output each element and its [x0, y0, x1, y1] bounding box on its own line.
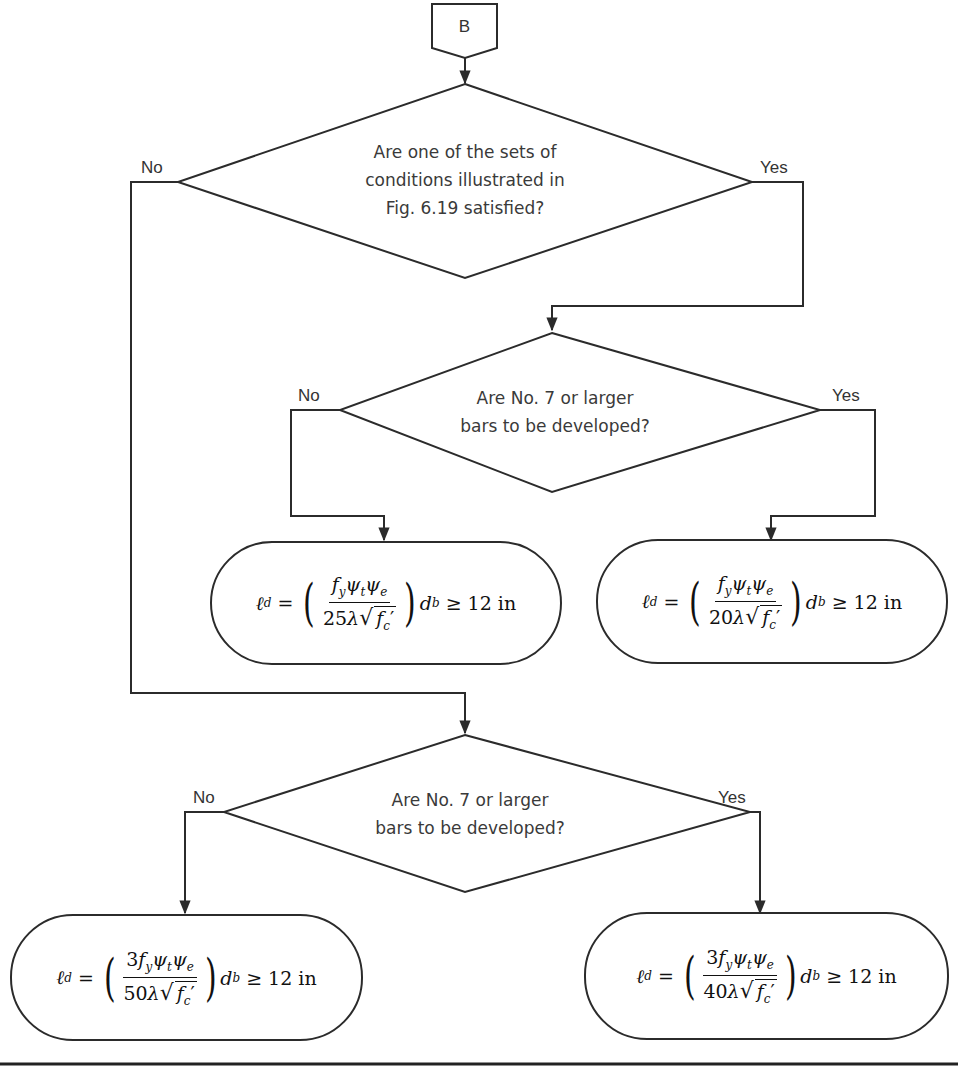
decision-1-no-label: No	[141, 158, 163, 178]
ell-symbol: ℓ	[256, 592, 264, 615]
decision-1-yes-label: Yes	[760, 158, 788, 178]
right-paren: )	[404, 578, 416, 628]
decision-1-line-1: Are one of the sets of	[305, 138, 625, 166]
left-paren: (	[104, 953, 116, 1003]
equals-sign: =	[658, 965, 674, 987]
numerator: fyψtψe	[329, 573, 391, 603]
fraction: 3fyψtψe 40λ√fc′	[700, 946, 779, 1006]
left-paren: (	[303, 578, 315, 628]
decision-2-yes-label: Yes	[832, 386, 860, 406]
connector-b-label: B	[432, 17, 497, 37]
db-symbol: d	[800, 965, 812, 987]
equals-sign: =	[277, 592, 293, 614]
decision-3-line-2: bars to be developed?	[345, 814, 595, 842]
decision-2-no-label: No	[298, 386, 320, 406]
lhs-subscript: d	[64, 971, 72, 985]
equals-sign: =	[663, 591, 679, 613]
ell-symbol: ℓ	[642, 590, 650, 613]
result-4-rhs: ≥ 12 in	[826, 965, 897, 987]
lhs-subscript: d	[650, 595, 658, 609]
result-1-rhs: ≥ 12 in	[446, 592, 517, 614]
result-3-formula: ℓd = ( 3fyψtψe 50λ√fc′ ) db ≥ 12 in	[11, 915, 362, 1040]
fraction: 3fyψtψe 50λ√fc′	[120, 948, 199, 1008]
result-2-formula: ℓd = ( fyψtψe 20λ√fc′ ) db ≥ 12 in	[597, 540, 947, 663]
fraction: fyψtψe 20λ√fc′	[706, 572, 785, 632]
denominator: 20λ√fc′	[706, 602, 785, 632]
decision-1-line-2: conditions illustrated in	[305, 166, 625, 194]
fraction: fyψtψe 25λ√fc′	[320, 573, 399, 633]
decision-2-line-1: Are No. 7 or larger	[430, 384, 680, 412]
decision-2-question: Are No. 7 or larger bars to be developed…	[430, 384, 680, 440]
result-4-formula: ℓd = ( 3fyψtψe 40λ√fc′ ) db ≥ 12 in	[585, 913, 948, 1039]
db-symbol: d	[420, 592, 432, 614]
equals-sign: =	[78, 967, 94, 989]
decision-3-question: Are No. 7 or larger bars to be developed…	[345, 786, 595, 842]
decision-3-line-1: Are No. 7 or larger	[345, 786, 595, 814]
lhs-subscript: d	[264, 596, 272, 610]
decision-1-line-3: Fig. 6.19 satisfied?	[305, 194, 625, 222]
decision-3-no-label: No	[193, 788, 215, 808]
left-paren: (	[689, 577, 701, 627]
denominator: 25λ√fc′	[320, 603, 399, 633]
right-paren: )	[790, 577, 802, 627]
result-1-formula: ℓd = ( fyψtψe 25λ√fc′ ) db ≥ 12 in	[211, 542, 561, 664]
decision-2-line-2: bars to be developed?	[430, 412, 680, 440]
right-paren: )	[785, 951, 797, 1001]
db-symbol: d	[220, 967, 232, 989]
db-symbol: d	[806, 591, 818, 613]
denominator: 40λ√fc′	[700, 976, 779, 1006]
denominator: 50λ√fc′	[120, 978, 199, 1008]
result-2-rhs: ≥ 12 in	[832, 591, 903, 613]
numerator: 3fyψtψe	[703, 946, 777, 976]
flowchart-canvas: B Are one of the sets of conditions illu…	[0, 0, 958, 1070]
numerator: 3fyψtψe	[123, 948, 197, 978]
decision-3-yes-label: Yes	[718, 788, 746, 808]
numerator: fyψtψe	[715, 572, 777, 602]
left-paren: (	[684, 951, 696, 1001]
ell-symbol: ℓ	[56, 966, 64, 989]
result-3-rhs: ≥ 12 in	[246, 967, 317, 989]
decision-1-question: Are one of the sets of conditions illust…	[305, 138, 625, 222]
lhs-subscript: d	[644, 969, 652, 983]
ell-symbol: ℓ	[636, 965, 644, 988]
right-paren: )	[205, 953, 217, 1003]
